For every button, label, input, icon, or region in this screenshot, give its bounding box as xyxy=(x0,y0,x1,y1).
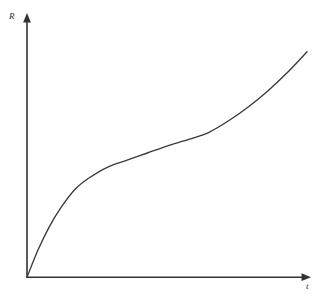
line-chart xyxy=(0,0,326,300)
y-axis xyxy=(23,13,31,278)
y-axis-label: R xyxy=(9,12,15,21)
y-axis-arrowhead-icon xyxy=(23,13,31,23)
x-axis xyxy=(27,273,311,281)
data-curve-r-of-t xyxy=(27,52,307,277)
x-axis-label: t xyxy=(306,282,309,291)
caption-sliver xyxy=(6,293,306,300)
figure-container: R t xyxy=(0,0,326,300)
x-axis-arrowhead-icon xyxy=(302,273,312,281)
